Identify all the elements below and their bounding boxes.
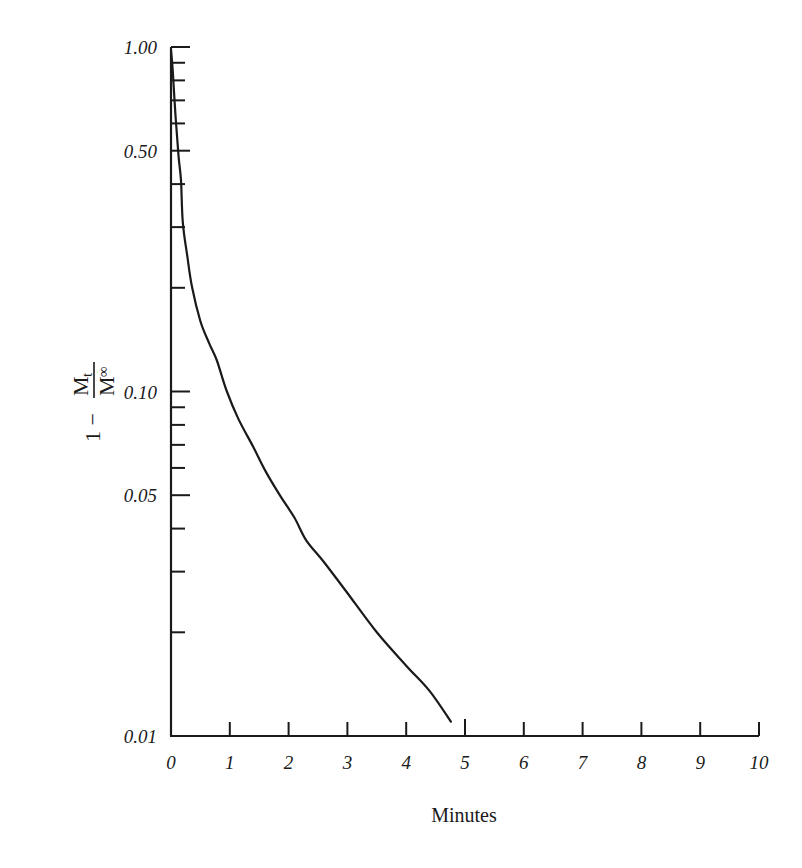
- x-tick-label: 4: [401, 752, 411, 773]
- y-axis-title-denominator: M: [94, 376, 119, 396]
- x-tick-label: 3: [342, 752, 353, 773]
- axes: [170, 47, 759, 736]
- x-tick-label: 2: [284, 752, 294, 773]
- y-tick-label: 0.10: [124, 382, 158, 403]
- x-tick-label: 7: [578, 752, 589, 773]
- y-axis-title: 1 − M t M ∞: [68, 362, 119, 442]
- y-tick-label: 0.50: [124, 141, 158, 162]
- x-tick-label: 9: [695, 752, 705, 773]
- x-tick-label: 10: [750, 752, 770, 773]
- x-tick-label: 1: [225, 752, 235, 773]
- y-tick-label: 1.00: [124, 37, 158, 58]
- data-curve: [171, 50, 451, 722]
- x-tick-label: 5: [460, 752, 470, 773]
- y-tick-labels: 1.000.500.100.050.01: [124, 37, 158, 747]
- y-axis-title-numerator: M: [68, 376, 93, 396]
- y-tick-label: 0.05: [124, 485, 157, 506]
- tick-marks: [171, 47, 759, 736]
- x-axis-title: Minutes: [431, 804, 497, 826]
- x-tick-label: 0: [166, 752, 176, 773]
- x-tick-label: 8: [637, 752, 647, 773]
- x-tick-label: 6: [519, 752, 529, 773]
- y-axis-title-denominator-sub: ∞: [95, 366, 111, 377]
- x-tick-labels: 012345678910: [166, 752, 769, 773]
- y-axis-title-numerator-sub: t: [79, 372, 95, 377]
- y-tick-label: 0.01: [124, 726, 157, 747]
- chart: 012345678910 1.000.500.100.050.01 Minute…: [0, 0, 802, 868]
- y-axis-title-one: 1 −: [80, 413, 105, 442]
